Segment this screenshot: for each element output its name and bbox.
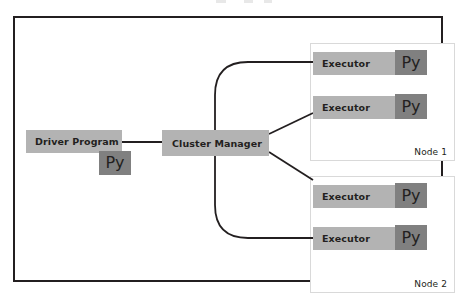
node1-executor-2-box[interactable]: Executor (313, 96, 398, 119)
cropped-caption-remnant-3 (264, 0, 272, 3)
node2-executor-2-python-chip-label: Py (401, 230, 420, 246)
cluster-manager-box[interactable]: Cluster Manager (162, 130, 269, 156)
node2-executor-2-box[interactable]: Executor (313, 227, 398, 250)
node2-executor-2-label: Executor (313, 233, 370, 244)
node2-executor-1-python-chip-label: Py (401, 188, 420, 204)
node2-executor-1-python-chip: Py (395, 183, 427, 208)
diagram-canvas: Node 1 Node 2 Driver Program Py Cluster … (0, 0, 456, 296)
node-1-label: Node 1 (414, 147, 447, 157)
cluster-manager-label: Cluster Manager (162, 138, 262, 149)
node2-executor-1-label: Executor (313, 191, 370, 202)
node2-executor-1-box[interactable]: Executor (313, 185, 398, 208)
node1-executor-1-python-chip-label: Py (401, 55, 420, 71)
node1-executor-2-python-chip-label: Py (401, 99, 420, 115)
node1-executor-1-python-chip: Py (395, 50, 427, 75)
node1-executor-1-label: Executor (313, 58, 370, 69)
driver-program-label: Driver Program (26, 136, 119, 147)
cropped-caption-remnant-1 (216, 0, 226, 3)
node2-executor-2-python-chip: Py (395, 225, 427, 250)
node1-executor-2-python-chip: Py (395, 94, 427, 119)
driver-python-chip: Py (99, 151, 131, 175)
node1-executor-1-box[interactable]: Executor (313, 52, 398, 75)
node-2-label: Node 2 (414, 279, 447, 289)
driver-program-box[interactable]: Driver Program (26, 130, 122, 153)
node1-executor-2-label: Executor (313, 102, 370, 113)
driver-python-chip-label: Py (105, 155, 124, 171)
cropped-caption-remnant-2 (244, 0, 253, 3)
